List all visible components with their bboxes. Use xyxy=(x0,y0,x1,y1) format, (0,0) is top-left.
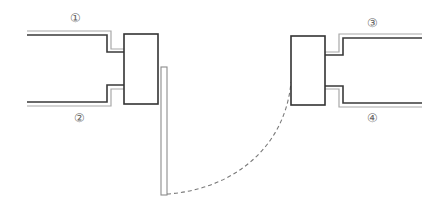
right-bracket-box xyxy=(291,36,325,105)
right-assembly xyxy=(291,34,422,107)
label-4: ④ xyxy=(367,112,378,124)
door-leaf xyxy=(161,67,167,195)
door-swing-arc xyxy=(167,82,291,194)
left-pipe-outer-bottom xyxy=(27,89,124,106)
left-pipe-bottom xyxy=(27,85,124,102)
right-pipe-outer-top xyxy=(325,34,422,52)
left-pipe-top xyxy=(27,35,124,52)
diagram-canvas xyxy=(0,0,446,210)
label-1: ① xyxy=(70,12,81,24)
left-pipe-outer-top xyxy=(27,31,124,49)
label-2: ② xyxy=(74,112,85,124)
left-bracket-box xyxy=(124,34,158,104)
right-pipe-outer-bottom xyxy=(325,89,422,107)
label-3: ③ xyxy=(367,17,378,29)
left-assembly xyxy=(27,31,158,106)
